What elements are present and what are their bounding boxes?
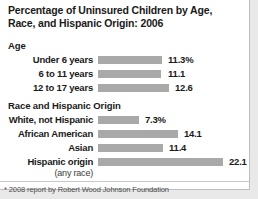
bar-shape: [98, 130, 178, 138]
bar-label: Asian: [0, 142, 93, 154]
bar-row: Asian 11.4: [0, 142, 250, 154]
bar-sublabel: (any race): [0, 168, 93, 179]
footnote: * 2008 report by Robert Wood Johnson Fou…: [4, 185, 254, 195]
page-title: Percentage of Uninsured Children by Age,…: [8, 4, 242, 30]
bar-label: Hispanic origin: [0, 156, 93, 168]
bar-value: 22.1: [229, 156, 247, 168]
group-heading-age: Age: [8, 40, 26, 51]
bar-row: Hispanic origin 22.1: [0, 156, 250, 168]
bar-shape: [98, 116, 139, 124]
bar-label: Under 6 years: [0, 54, 93, 66]
bar-row: African American 14.1: [0, 128, 250, 140]
bar-shape: [98, 84, 169, 92]
bar-value: 14.1: [184, 128, 202, 140]
bar-row: 6 to 11 years 11.1: [0, 68, 250, 80]
bar-label: 6 to 11 years: [0, 68, 93, 80]
bar-value: 11.4: [169, 142, 186, 154]
bar-label: White, not Hispanic: [0, 114, 93, 126]
bar-value: 12.6: [175, 82, 193, 94]
chart-panel: Percentage of Uninsured Children by Age,…: [0, 0, 250, 190]
bar-row: 12 to 17 years 12.6: [0, 82, 250, 94]
group-heading-race: Race and Hispanic Origin: [8, 100, 121, 111]
bar-shape: [98, 70, 161, 78]
bar-value: 11.3%: [168, 54, 193, 66]
bar-shape: [98, 144, 163, 152]
bar-label: African American: [0, 128, 93, 140]
bar-shape: [98, 158, 223, 166]
bar-row: Under 6 years 11.3%: [0, 54, 250, 66]
footnote-divider: [0, 181, 250, 182]
bar-value: 11.1: [168, 68, 185, 80]
bar-label: 12 to 17 years: [0, 82, 93, 94]
bar-row: White, not Hispanic 7.3%: [0, 114, 250, 126]
bar-shape: [98, 56, 162, 64]
bar-value: 7.3%: [145, 114, 166, 126]
